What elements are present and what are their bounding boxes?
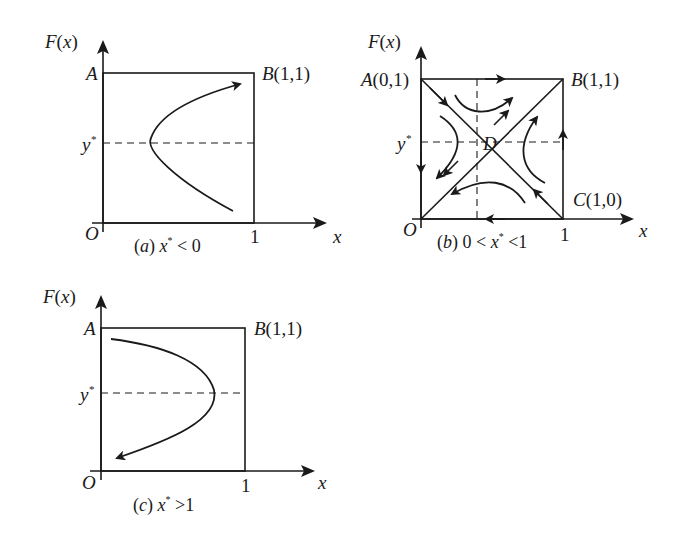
x-axis-label: x [332, 226, 342, 247]
x-tick-1: 1 [250, 226, 260, 247]
trajectory-bottom [452, 182, 525, 203]
trajectory-curve [150, 84, 240, 211]
corner-label-b: B(1,1) [262, 63, 310, 85]
y-star-label: y* [80, 133, 96, 155]
panel-c: F(x) A B(1,1) y* O 1 x (c) x* >1 [42, 286, 327, 516]
unit-square [103, 73, 254, 223]
trajectory-right [523, 117, 545, 183]
corner-label-a: A [82, 318, 96, 339]
stable-arrow-from-c [534, 190, 548, 204]
unstable-arrow-to-b [494, 111, 508, 125]
y-star-label: y* [78, 383, 94, 405]
panel-b: F(x) A(0,1) B(1,1) C(1,0) D y* O 1 x (b)… [359, 31, 648, 253]
origin-label: O [403, 219, 417, 240]
panel-a: F(x) A B(1,1) y* O 1 x (a) x* < 0 [44, 31, 342, 257]
saddle-point-label-d: D [482, 133, 497, 154]
y-axis-label: F(x) [367, 31, 401, 53]
y-axis-label: F(x) [42, 286, 76, 308]
trajectory-curve [111, 339, 214, 458]
corner-label-b: B(1,1) [571, 69, 619, 91]
origin-label: O [82, 472, 96, 493]
corner-label-a: A [84, 63, 98, 84]
caption-a: (a) x* < 0 [134, 235, 201, 257]
origin-label: O [85, 223, 99, 244]
corner-label-a: A(0,1) [359, 69, 409, 91]
trajectory-left [437, 116, 458, 178]
corner-label-b: B(1,1) [254, 318, 302, 340]
phase-diagram-figure: F(x) A B(1,1) y* O 1 x (a) x* < 0 F(x) [0, 0, 676, 543]
stable-arrow-from-a [430, 88, 447, 105]
x-axis-label: x [317, 472, 327, 493]
caption-b: (b) 0 < x* <1 [437, 231, 527, 253]
x-axis-label: x [638, 220, 648, 241]
x-tick-1: 1 [241, 475, 251, 496]
trajectory-top [455, 95, 512, 112]
y-axis-label: F(x) [44, 31, 78, 53]
y-star-label: y* [395, 132, 411, 154]
unit-square [101, 328, 245, 471]
caption-c: (c) x* >1 [133, 494, 194, 516]
x-tick-1: 1 [560, 224, 570, 245]
corner-label-c: C(1,0) [573, 189, 622, 211]
